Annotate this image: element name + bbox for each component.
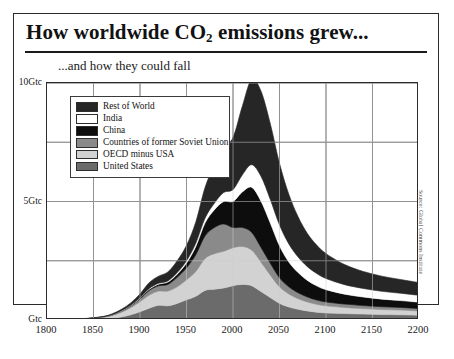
legend-swatch: [76, 114, 98, 124]
legend-item: China: [76, 125, 224, 137]
chart-subtitle: ...and how they could fall: [58, 58, 191, 74]
page-title: How worldwide CO2 emissions grew...: [26, 20, 426, 50]
x-tick-label: 2050: [268, 324, 289, 335]
x-tick-label: 2100: [315, 324, 336, 335]
legend-swatch: [76, 150, 98, 160]
legend-item: Countries of former Soviet Union: [76, 137, 224, 149]
chart-legend: Rest of WorldIndiaChinaCountries of form…: [70, 96, 230, 178]
x-tick-label: 2200: [408, 324, 429, 335]
title-text-post: emissions grew...: [213, 20, 369, 44]
y-tick-label: 5Gtc: [24, 196, 42, 206]
legend-label: Countries of former Soviet Union: [103, 138, 229, 147]
title-subscript: 2: [206, 30, 213, 45]
legend-item: OECD minus USA: [76, 149, 224, 161]
legend-label: China: [103, 126, 125, 135]
x-tick-label: 1900: [129, 324, 150, 335]
source-credit: Source: Global Commons Institute: [418, 190, 424, 274]
x-tick-label: 2150: [361, 324, 382, 335]
legend-label: India: [103, 114, 122, 123]
legend-label: United States: [103, 162, 153, 171]
title-text-pre: How worldwide CO: [26, 20, 206, 44]
legend-swatch: [76, 138, 98, 148]
x-tick-label: 1800: [36, 324, 57, 335]
x-tick-label: 1950: [175, 324, 196, 335]
legend-label: Rest of World: [103, 102, 155, 111]
x-tick-label: 1850: [82, 324, 103, 335]
x-tick-label: 2000: [222, 324, 243, 335]
legend-label: OECD minus USA: [103, 150, 174, 159]
title-divider: [25, 51, 427, 53]
legend-item: Rest of World: [76, 101, 224, 113]
legend-swatch: [76, 102, 98, 112]
y-tick-label: Gtc: [28, 314, 42, 324]
legend-item: India: [76, 113, 224, 125]
legend-swatch: [76, 126, 98, 136]
legend-item: United States: [76, 161, 224, 173]
chart-plot-area: Gtc5Gtc10Gtc 180018501900195020002050210…: [46, 82, 418, 319]
y-tick-label: 10Gtc: [19, 77, 42, 87]
legend-swatch: [76, 162, 98, 172]
figure-panel: How worldwide CO2 emissions grew... ...a…: [13, 13, 439, 305]
